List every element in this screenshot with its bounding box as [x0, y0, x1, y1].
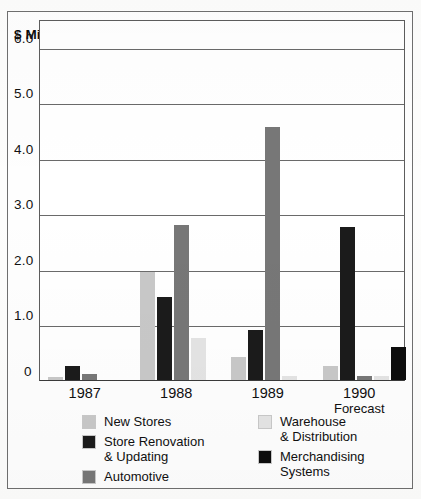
x-tick-label: 1987 [39, 385, 131, 401]
legend-label: Merchandising Systems [280, 449, 365, 479]
x-tick-year: 1988 [131, 385, 223, 401]
y-tick-label: 1.0 [14, 308, 33, 323]
legend-label: Warehouse & Distribution [280, 414, 357, 444]
legend-label: New Stores [104, 414, 171, 429]
y-tick-label: 6.0 [14, 31, 33, 46]
legend-item[interactable]: New Stores [82, 414, 262, 429]
legend-swatch-icon [258, 450, 272, 464]
legend-item[interactable]: Warehouse & Distribution [258, 414, 408, 444]
legend-swatch-icon [82, 415, 96, 429]
y-tick-label: 5.0 [14, 86, 33, 101]
y-tick-label: 2.0 [14, 253, 33, 268]
chart-legend: New StoresStore Renovation & UpdatingAut… [0, 414, 421, 492]
legend-swatch-icon [258, 415, 272, 429]
x-tick-label: 1988 [131, 385, 223, 401]
y-tick-label: 0 [24, 364, 32, 379]
x-tick-year: 1990 [314, 385, 406, 401]
legend-swatch-icon [82, 435, 96, 449]
x-tick-year: 1987 [39, 385, 131, 401]
x-tick-label: 1990Forecast [314, 385, 406, 416]
y-tick-label: 4.0 [14, 142, 33, 157]
legend-swatch-icon [82, 470, 96, 484]
legend-column-right: Warehouse & DistributionMerchandising Sy… [258, 414, 408, 484]
chart-figure: $ Millions 01.02.03.04.05.06.0 198719881… [0, 0, 421, 499]
legend-label: Store Renovation & Updating [104, 434, 204, 464]
legend-column-left: New StoresStore Renovation & UpdatingAut… [82, 414, 262, 489]
legend-item[interactable]: Store Renovation & Updating [82, 434, 262, 464]
x-tick-label: 1989 [222, 385, 314, 401]
legend-item[interactable]: Automotive [82, 469, 262, 484]
legend-label: Automotive [104, 469, 169, 484]
x-tick-year: 1989 [222, 385, 314, 401]
legend-item[interactable]: Merchandising Systems [258, 449, 408, 479]
y-tick-label: 3.0 [14, 197, 33, 212]
